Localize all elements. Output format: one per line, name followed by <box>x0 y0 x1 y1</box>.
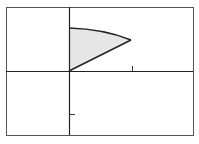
plot-area <box>0 0 199 144</box>
